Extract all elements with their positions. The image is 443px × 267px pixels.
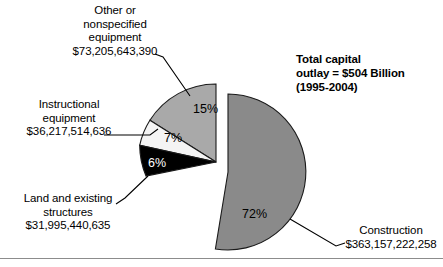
percent-label-instructional-equipment: 7% xyxy=(164,131,182,145)
pie-chart-figure: Other or nonspecified equipment $73,205,… xyxy=(0,0,443,267)
label-other-equipment: Other or nonspecified equipment $73,205,… xyxy=(47,4,183,58)
leader-line-other-equipment xyxy=(155,54,190,96)
percent-label-other-equipment: 15% xyxy=(193,102,218,116)
label-construction: Construction $363,157,222,258 xyxy=(338,224,443,251)
label-instructional-equipment: Instructional equipment $36,217,514,636 xyxy=(2,98,136,139)
pie-slice-construction xyxy=(215,94,305,250)
leader-line-construction xyxy=(290,219,345,246)
percent-label-land-structures: 6% xyxy=(148,156,166,170)
percent-label-construction: 72% xyxy=(242,207,267,221)
total-capital-outlay-note: Total capital outlay = $504 Billion (199… xyxy=(296,52,436,94)
label-land-structures: Land and existing structures $31,995,440… xyxy=(0,192,136,233)
bottom-divider xyxy=(0,258,443,259)
